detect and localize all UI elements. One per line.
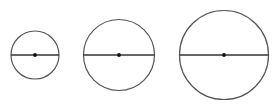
diagram-canvas xyxy=(0,0,275,109)
center-point xyxy=(33,53,37,57)
center-point xyxy=(117,53,121,57)
circle-large xyxy=(180,11,269,100)
center-point xyxy=(222,53,226,57)
circle-small xyxy=(11,31,59,79)
circle-medium xyxy=(84,20,155,91)
circles-diagram xyxy=(0,0,275,109)
